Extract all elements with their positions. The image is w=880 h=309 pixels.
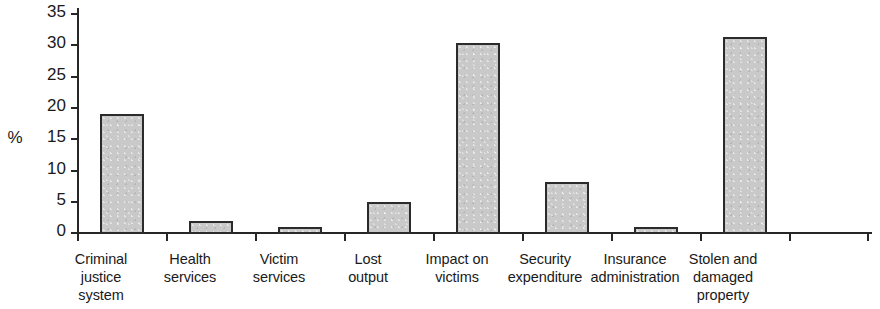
y-axis-tick-label: 5 [32, 190, 66, 210]
x-axis-tick [166, 234, 168, 241]
y-axis-tick-label: 35 [32, 2, 66, 22]
x-axis-category-label: Criminal justice system [57, 250, 145, 304]
bar [278, 227, 322, 234]
x-axis-tick [433, 234, 435, 241]
y-axis-tick-label: 30 [32, 33, 66, 53]
x-axis-tick [611, 234, 613, 241]
x-axis-category-label: Health services [146, 250, 234, 286]
bar [367, 202, 411, 234]
x-axis-tick [344, 234, 346, 241]
bar [456, 43, 500, 234]
x-axis-tick [700, 234, 702, 241]
y-axis-tick: 20 [71, 107, 78, 109]
y-axis-tick: 35 [71, 13, 78, 15]
bar [189, 221, 233, 234]
y-axis-tick-label: 10 [32, 159, 66, 179]
plot-area: 0 5 10 15 20 25 30 35 [77, 8, 872, 236]
bar [100, 114, 144, 234]
y-axis-tick-label: 0 [32, 221, 66, 241]
x-axis-tick [77, 234, 79, 241]
x-axis-tick [867, 234, 869, 241]
y-axis-tick: 25 [71, 76, 78, 78]
bar [634, 227, 678, 234]
x-axis-category-label: Impact on victims [409, 250, 505, 286]
x-axis-category-label: Stolen and damaged property [675, 250, 771, 304]
y-axis-tick-label: 15 [32, 127, 66, 147]
y-axis-title: % [2, 128, 28, 148]
y-axis-tick-label: 20 [32, 96, 66, 116]
bar [723, 37, 767, 234]
y-axis-tick: 30 [71, 44, 78, 46]
x-axis-tick [255, 234, 257, 241]
y-axis-tick: 15 [71, 138, 78, 140]
x-axis-category-label: Insurance administration [580, 250, 690, 286]
y-axis-tick: 5 [71, 201, 78, 203]
y-axis-tick: 10 [71, 170, 78, 172]
x-axis-category-label: Lost output [324, 250, 412, 286]
y-axis-tick-label: 25 [32, 65, 66, 85]
x-axis-tick [522, 234, 524, 241]
x-axis-category-label: Victim services [235, 250, 323, 286]
bar-chart: % 0 5 10 15 20 25 30 35 [0, 0, 880, 309]
x-axis-tick [789, 234, 791, 241]
bar [545, 182, 589, 234]
